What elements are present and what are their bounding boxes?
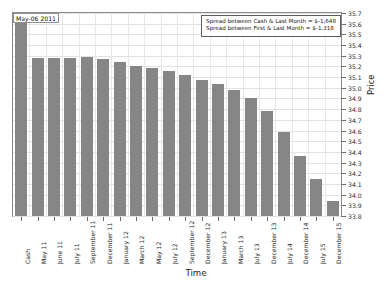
x-axis-tick-label: July 11 xyxy=(73,243,80,264)
bar xyxy=(327,201,339,216)
y-axis-tick-label: 34.0 xyxy=(348,191,362,198)
y-axis-tick-label: 35.6 xyxy=(348,20,362,27)
y-axis-tick xyxy=(342,173,346,174)
x-axis-tick-label: May 11 xyxy=(40,242,47,264)
x-axis-tick-label: July 15 xyxy=(319,243,326,264)
x-axis-tick xyxy=(87,217,88,221)
y-axis-tick-label: 35.3 xyxy=(348,52,362,59)
x-axis-tick xyxy=(333,217,334,221)
x-axis-tick xyxy=(169,217,170,221)
y-axis-tick xyxy=(342,184,346,185)
x-axis-tick-label: December 12 xyxy=(204,223,211,264)
y-axis-tick xyxy=(342,152,346,153)
bar xyxy=(163,71,175,216)
x-axis-tick-label: May 12 xyxy=(155,242,162,264)
y-axis-tick-label: 34.2 xyxy=(348,170,362,177)
x-axis-tick-label: January 12 xyxy=(122,231,129,264)
bar xyxy=(130,66,142,216)
x-axis-tick xyxy=(202,217,203,221)
plot-area xyxy=(12,12,342,217)
y-axis-tick xyxy=(342,216,346,217)
x-axis-tick xyxy=(300,217,301,221)
x-axis-tick-label: December 13 xyxy=(270,223,277,264)
x-axis-tick-label: March 12 xyxy=(138,236,145,264)
y-axis-tick xyxy=(342,109,346,110)
x-axis-tick-label: Cash xyxy=(24,249,31,264)
bar-series xyxy=(13,13,341,216)
y-axis-tick-label: 34.5 xyxy=(348,138,362,145)
x-axis-tick xyxy=(103,217,104,221)
y-axis-tick xyxy=(342,195,346,196)
x-axis-tick-label: March 13 xyxy=(237,236,244,264)
x-axis-tick-label: September 12 xyxy=(188,221,195,264)
y-axis-tick xyxy=(342,77,346,78)
bar xyxy=(261,111,273,216)
price-forward-curve-bar-chart: May-06 2011 Spread between Cash & Last M… xyxy=(0,0,392,286)
y-axis-tick xyxy=(342,141,346,142)
x-axis-tick xyxy=(152,217,153,221)
bar xyxy=(32,58,44,216)
x-axis-tick-label: December 11 xyxy=(106,223,113,264)
y-axis-tick xyxy=(342,88,346,89)
x-axis-tick xyxy=(234,217,235,221)
x-axis-title: Time xyxy=(0,268,392,278)
y-axis-tick-label: 35.1 xyxy=(348,74,362,81)
x-axis-tick xyxy=(284,217,285,221)
x-axis-tick xyxy=(38,217,39,221)
x-axis-tick xyxy=(136,217,137,221)
y-axis-tick-label: 34.9 xyxy=(348,95,362,102)
y-axis-tick xyxy=(342,66,346,67)
y-axis-tick xyxy=(342,120,346,121)
spread-cash-last-month-text: Spread between Cash & Last Month = $-1,6… xyxy=(206,18,336,25)
bar xyxy=(294,156,306,216)
bar xyxy=(212,84,224,216)
y-axis-tick xyxy=(342,56,346,57)
y-axis-tick-label: 34.4 xyxy=(348,148,362,155)
y-axis-tick-label: 35.0 xyxy=(348,84,362,91)
bar xyxy=(146,68,158,217)
bar xyxy=(114,62,126,216)
x-axis-tick xyxy=(218,217,219,221)
x-axis-tick-labels: CashMay 11June 11July 11September 11Dece… xyxy=(12,222,342,266)
y-axis-tick-label: 34.3 xyxy=(348,159,362,166)
y-axis-tick-label: 35.7 xyxy=(348,10,362,17)
spread-first-last-month-text: Spread between First & Last Month = $-1,… xyxy=(206,25,336,32)
bar xyxy=(81,57,93,216)
bar xyxy=(245,98,257,216)
y-axis-tick-label: 34.1 xyxy=(348,180,362,187)
x-axis-tick-label: July 12 xyxy=(171,243,178,264)
bar xyxy=(97,59,109,216)
y-axis-tick-label: 35.4 xyxy=(348,42,362,49)
x-axis-tick xyxy=(70,217,71,221)
x-axis-tick-label: December 14 xyxy=(302,223,309,264)
x-axis-tick xyxy=(267,217,268,221)
x-axis-tick-label: December 15 xyxy=(335,223,342,264)
x-axis-tick-label: July 14 xyxy=(286,243,293,264)
y-axis-tick-label: 35.2 xyxy=(348,63,362,70)
y-axis-tick xyxy=(342,13,346,14)
x-axis-tick xyxy=(316,217,317,221)
y-axis-tick xyxy=(342,45,346,46)
x-axis-tick-label: June 11 xyxy=(56,241,63,264)
bar xyxy=(15,22,27,216)
y-axis-tick xyxy=(342,163,346,164)
y-axis-tick xyxy=(342,205,346,206)
y-axis-tick xyxy=(342,34,346,35)
bar xyxy=(278,132,290,216)
date-label: May-06 2011 xyxy=(13,13,59,23)
x-axis-tick-label: September 11 xyxy=(89,221,96,264)
y-axis-tick-label: 35.5 xyxy=(348,31,362,38)
bar xyxy=(228,90,240,216)
y-axis-title: Price xyxy=(366,75,376,95)
spread-annotation-box: Spread between Cash & Last Month = $-1,6… xyxy=(201,15,341,37)
x-axis-tick xyxy=(120,217,121,221)
y-axis-tick-label: 34.6 xyxy=(348,127,362,134)
y-axis-tick-label: 34.7 xyxy=(348,116,362,123)
x-axis-tick-label: July 13 xyxy=(253,243,260,264)
y-axis-tick xyxy=(342,24,346,25)
y-axis-tick xyxy=(342,131,346,132)
y-axis-tick xyxy=(342,98,346,99)
y-axis-tick-label: 33.8 xyxy=(348,213,362,220)
x-axis-tick-label: January 13 xyxy=(220,231,227,264)
bar xyxy=(310,179,322,216)
